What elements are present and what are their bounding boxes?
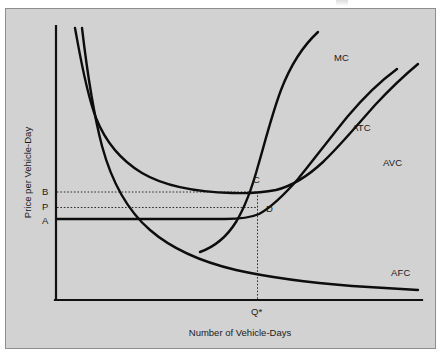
y-tick-label-p: P	[42, 201, 49, 212]
avc-curve	[57, 69, 397, 219]
x-tick-label-q: Q*	[251, 306, 263, 317]
chart-canvas	[0, 0, 441, 357]
y-tick-label-b: B	[42, 186, 49, 197]
cost-curves-figure: Price per Vehicle-Day Number of Vehicle-…	[0, 0, 441, 357]
y-axis-title: Price per Vehicle-Day	[22, 98, 33, 248]
y-tick-label-a: A	[42, 215, 49, 226]
avc-curve-label: AVC	[383, 157, 402, 168]
x-axis-title: Number of Vehicle-Days	[55, 327, 425, 338]
atc-curve-label: ATC	[352, 122, 371, 133]
point-label-c: C	[253, 174, 260, 185]
afc-curve-label: AFC	[391, 267, 411, 278]
afc-curve	[82, 28, 418, 290]
mc-curve-label: MC	[334, 52, 349, 63]
point-label-d: D	[266, 203, 273, 214]
atc-curve	[75, 28, 418, 193]
